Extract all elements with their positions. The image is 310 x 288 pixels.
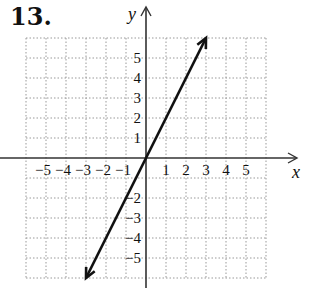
svg-text:4: 4 bbox=[222, 162, 230, 178]
axes bbox=[0, 7, 297, 288]
svg-text:2: 2 bbox=[182, 162, 190, 178]
svg-text:1: 1 bbox=[162, 162, 170, 178]
svg-text:5: 5 bbox=[242, 162, 250, 178]
svg-text:4: 4 bbox=[134, 70, 142, 86]
x-axis-label: x bbox=[291, 162, 300, 182]
svg-text:5: 5 bbox=[134, 50, 142, 66]
svg-text:−3: −3 bbox=[75, 162, 91, 178]
svg-text:−2: −2 bbox=[95, 162, 111, 178]
y-axis-label: y bbox=[126, 4, 136, 24]
svg-text:−4: −4 bbox=[55, 162, 71, 178]
svg-text:3: 3 bbox=[134, 90, 142, 106]
svg-text:−1: −1 bbox=[115, 162, 131, 178]
svg-text:−3: −3 bbox=[125, 210, 141, 226]
svg-text:1: 1 bbox=[134, 130, 142, 146]
svg-text:2: 2 bbox=[134, 110, 142, 126]
svg-text:3: 3 bbox=[202, 162, 210, 178]
coordinate-plane: −5−4−3−2−11234554321−2−3−4−5 x y bbox=[0, 0, 310, 288]
svg-text:−4: −4 bbox=[125, 230, 141, 246]
svg-text:−5: −5 bbox=[35, 162, 51, 178]
svg-text:−5: −5 bbox=[125, 250, 141, 266]
